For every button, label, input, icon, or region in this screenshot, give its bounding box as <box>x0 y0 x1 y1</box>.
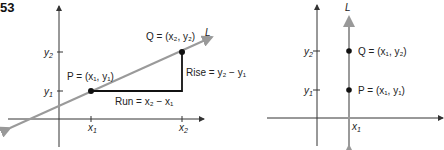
p-label: P = (x₁, y₁) <box>358 85 405 96</box>
rise-label: Rise = y₂ − y₁ <box>186 67 247 78</box>
right-diagram: L y2 y1 x1 Q = (x₁, y₂) P = (x₁, y₁) <box>267 2 443 146</box>
x1-tick-label: x1 <box>87 122 97 134</box>
y1-tick-label: y1 <box>303 85 313 97</box>
y1-tick-label: y1 <box>43 86 53 98</box>
line-label: L <box>345 2 351 13</box>
figure-canvas: 53 L y2 y1 x1 x2 P = (x₁, y₁) Q = (x₂, y… <box>0 0 444 150</box>
point-q <box>346 48 352 54</box>
point-p <box>346 87 352 93</box>
figure-number: 53 <box>0 0 14 15</box>
p-label: P = (x₁, y₁) <box>67 71 114 82</box>
line-label: L <box>205 27 211 38</box>
q-label: Q = (x₁, y₂) <box>358 46 407 57</box>
y2-tick-label: y2 <box>303 46 313 58</box>
q-label: Q = (x₂, y₂) <box>146 31 195 42</box>
run-label: Run = x₂ − x₁ <box>115 96 174 107</box>
x2-tick-label: x2 <box>178 122 188 134</box>
left-diagram: L y2 y1 x1 x2 P = (x₁, y₁) Q = (x₂, y₂) … <box>8 6 247 147</box>
point-p <box>88 88 94 94</box>
point-q <box>179 49 185 55</box>
x1-tick-label: x1 <box>351 121 361 133</box>
y2-tick-label: y2 <box>43 47 53 59</box>
